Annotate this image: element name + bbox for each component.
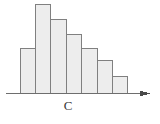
histogram-bar (112, 76, 127, 93)
histogram-svg (0, 0, 160, 124)
histogram-bar (82, 48, 97, 93)
histogram-figure: C (0, 0, 160, 124)
histogram-bar (20, 48, 35, 93)
histogram-bar (51, 19, 66, 93)
axis-label-c: C (60, 99, 76, 112)
histogram-bar (97, 60, 112, 93)
axis-arrow-icon (140, 91, 150, 97)
histogram-bar (66, 34, 81, 93)
bars-group (20, 4, 128, 93)
histogram-bar (35, 4, 50, 93)
